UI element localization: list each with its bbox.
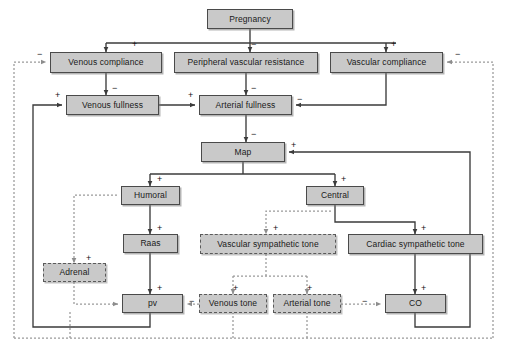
- edge-sign-s24: −: [362, 297, 367, 306]
- edge-sign-s6: −: [112, 84, 117, 93]
- edge-sign-s16: +: [273, 224, 278, 233]
- edge-sign-s8: +: [55, 91, 60, 100]
- edge-sign-s4: −: [37, 50, 42, 59]
- edge-sign-s23: −: [189, 297, 194, 306]
- edge-sign-s18: +: [86, 254, 91, 263]
- edge-sign-s14: +: [341, 175, 346, 184]
- edge-sign-s10: −: [297, 95, 302, 104]
- node-arterial_fullness[interactable]: Arterial fullness: [199, 95, 292, 115]
- edge-sign-s12: +: [291, 141, 296, 150]
- node-map[interactable]: Map: [201, 142, 285, 162]
- edge-sign-s5: −: [455, 50, 460, 59]
- edge-sign-s15: +: [157, 224, 162, 233]
- edge-sign-s19: +: [157, 284, 162, 293]
- node-vascular_compliance[interactable]: Vascular compliance: [330, 52, 443, 73]
- edge-sign-s1: +: [132, 40, 137, 49]
- node-cardiac_symp[interactable]: Cardiac sympathetic tone: [348, 234, 483, 254]
- node-venous_compliance[interactable]: Venous compliance: [50, 52, 162, 73]
- edge-sign-s21: +: [307, 284, 312, 293]
- node-pvr[interactable]: Peripheral vascular resistance: [174, 52, 318, 73]
- flowchart-canvas: PregnancyVenous compliancePeripheral vas…: [0, 0, 507, 353]
- node-pv[interactable]: pv: [122, 294, 183, 313]
- edge-sign-s3: +: [391, 40, 396, 49]
- node-venous_fullness[interactable]: Venous fullness: [66, 95, 159, 115]
- node-raas[interactable]: Raas: [123, 234, 178, 253]
- node-vascular_symp[interactable]: Vascular sympathetic tone: [200, 234, 336, 254]
- node-co[interactable]: CO: [385, 294, 446, 313]
- edge-sign-s2: −: [251, 40, 256, 49]
- edge-sign-s11: −: [251, 130, 256, 139]
- edge-sign-s9: +: [188, 91, 193, 100]
- node-venous_tone[interactable]: Venous tone: [199, 294, 267, 313]
- edge-sign-s13: +: [157, 175, 162, 184]
- edge-sign-s22: +: [421, 284, 426, 293]
- node-central[interactable]: Central: [306, 186, 364, 205]
- node-adrenal[interactable]: Adrenal: [43, 263, 106, 282]
- edge-sign-s17: +: [421, 224, 426, 233]
- solid-edges: [33, 29, 470, 327]
- node-humoral[interactable]: Humoral: [121, 186, 180, 205]
- edge-sign-s7: −: [251, 84, 256, 93]
- edge-sign-s20: +: [233, 284, 238, 293]
- node-pregnancy[interactable]: Pregnancy: [207, 9, 293, 29]
- node-arterial_tone[interactable]: Arterial tone: [273, 294, 341, 313]
